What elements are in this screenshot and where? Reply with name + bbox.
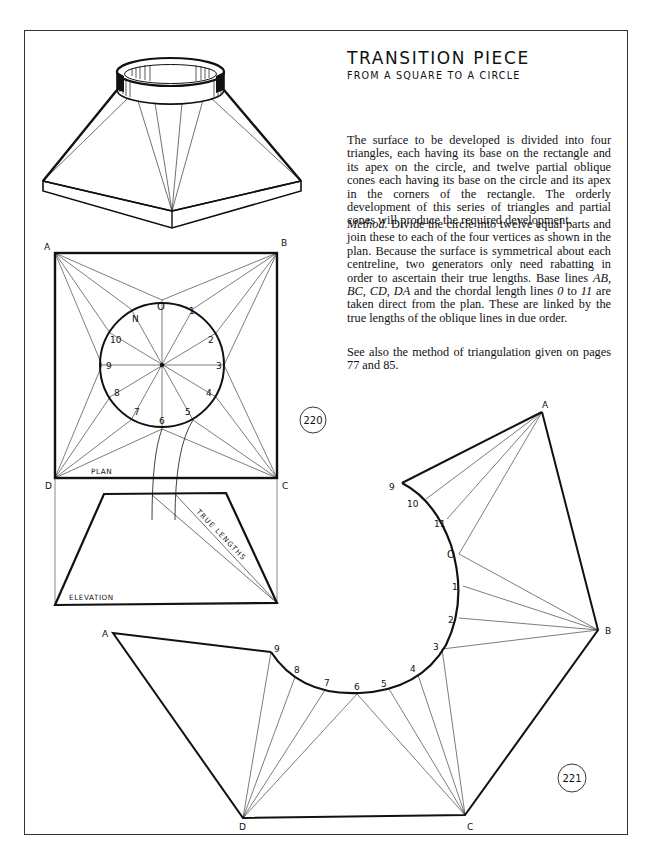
svg-text:C: C: [282, 481, 288, 491]
svg-text:O: O: [447, 549, 455, 560]
svg-text:O: O: [157, 301, 165, 312]
svg-text:6: 6: [159, 416, 165, 426]
plan-view: [55, 253, 277, 603]
svg-text:9: 9: [274, 644, 280, 654]
svg-text:5: 5: [381, 679, 387, 689]
figure-number-221: 221: [558, 764, 586, 792]
svg-text:PLAN: PLAN: [91, 467, 112, 476]
svg-text:2: 2: [448, 615, 454, 625]
svg-text:7: 7: [324, 678, 330, 688]
svg-text:D: D: [45, 481, 52, 491]
svg-text:11: 11: [434, 519, 445, 529]
svg-text:8: 8: [114, 388, 120, 398]
svg-text:A: A: [542, 400, 549, 410]
svg-text:5: 5: [185, 407, 191, 417]
svg-text:7: 7: [134, 407, 140, 417]
svg-text:D: D: [239, 822, 246, 832]
svg-text:1: 1: [452, 582, 458, 592]
svg-text:C: C: [467, 822, 473, 832]
svg-text:2: 2: [208, 335, 214, 345]
svg-text:A: A: [44, 242, 51, 252]
elevation-view: [55, 493, 277, 605]
development-pattern: [113, 412, 598, 818]
svg-text:8: 8: [294, 665, 300, 675]
svg-text:B: B: [605, 626, 611, 636]
svg-text:B: B: [281, 238, 287, 248]
figure-number-220: 220: [300, 407, 326, 433]
svg-text:6: 6: [354, 682, 360, 692]
svg-text:3: 3: [216, 361, 222, 371]
svg-text:4: 4: [410, 664, 416, 674]
svg-text:A: A: [102, 629, 109, 639]
svg-text:ELEVATION: ELEVATION: [69, 593, 114, 602]
svg-text:9: 9: [389, 482, 395, 492]
svg-text:10: 10: [407, 499, 419, 509]
svg-text:N: N: [132, 314, 139, 324]
svg-text:3: 3: [433, 642, 439, 652]
svg-text:221: 221: [562, 773, 581, 784]
svg-text:10: 10: [110, 335, 122, 345]
svg-text:4: 4: [206, 388, 212, 398]
svg-text:1: 1: [189, 306, 195, 316]
svg-text:9: 9: [106, 361, 112, 371]
svg-text:220: 220: [303, 415, 322, 426]
pictorial-view: [43, 58, 301, 228]
